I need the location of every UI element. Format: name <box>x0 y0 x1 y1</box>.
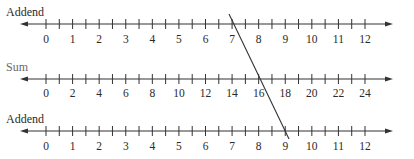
sum-tick-label: 20 <box>306 87 318 99</box>
arrow-right-icon <box>385 22 393 27</box>
sum-tick-label: 4 <box>96 87 102 99</box>
addend-top-tick-label: 10 <box>306 33 318 45</box>
addend-top-tick-label: 6 <box>203 33 209 45</box>
sum-tick-label: 22 <box>333 87 345 99</box>
arrow-left-icon <box>20 22 28 27</box>
sum-tick-label: 24 <box>359 87 371 99</box>
sum-axis-label: Sum <box>6 61 28 73</box>
arrow-left-icon <box>20 77 28 82</box>
sum-tick-label: 0 <box>43 87 49 99</box>
addend-bottom-tick-label: 7 <box>229 140 235 152</box>
addend-top-tick-label: 4 <box>149 33 155 45</box>
addend-bottom-tick-label: 3 <box>123 140 129 152</box>
sum-tick-label: 10 <box>173 87 185 99</box>
addend-bottom-axis-label: Addend <box>6 113 44 125</box>
addend-bottom-tick-label: 8 <box>256 140 262 152</box>
arrow-right-icon <box>385 77 393 82</box>
sum-tick-label: 8 <box>149 87 155 99</box>
addend-top-tick-label: 7 <box>229 33 235 45</box>
sum-tick-label: 16 <box>253 87 265 99</box>
addend-bottom-tick-label: 10 <box>306 140 318 152</box>
addend-top-tick-label: 0 <box>43 33 49 45</box>
addend-bottom-tick-label: 5 <box>176 140 182 152</box>
addend-bottom-tick-label: 4 <box>149 140 155 152</box>
addend-bottom-tick-label: 9 <box>282 140 288 152</box>
sum-tick-label: 18 <box>280 87 292 99</box>
addend-top-tick-label: 1 <box>70 33 76 45</box>
addend-top-tick-label: 3 <box>123 33 129 45</box>
addend-bottom-tick-label: 11 <box>333 140 344 152</box>
nomogram-canvas <box>0 0 414 159</box>
addend-top-tick-label: 8 <box>256 33 262 45</box>
addend-bottom-tick-label: 12 <box>359 140 371 152</box>
addend-bottom-tick-label: 0 <box>43 140 49 152</box>
arrow-right-icon <box>385 129 393 134</box>
addend-top-tick-label: 12 <box>359 33 371 45</box>
addend-top-axis-label: Addend <box>6 6 44 18</box>
addend-top-tick-label: 9 <box>282 33 288 45</box>
addend-top-tick-label: 11 <box>333 33 344 45</box>
addend-bottom-tick-label: 6 <box>203 140 209 152</box>
addend-top-tick-label: 2 <box>96 33 102 45</box>
sum-tick-label: 14 <box>226 87 238 99</box>
arrow-left-icon <box>20 129 28 134</box>
addend-top-tick-label: 5 <box>176 33 182 45</box>
sum-tick-label: 6 <box>123 87 129 99</box>
addend-bottom-tick-label: 2 <box>96 140 102 152</box>
sum-tick-label: 12 <box>200 87 212 99</box>
sum-tick-label: 2 <box>70 87 76 99</box>
addend-bottom-tick-label: 1 <box>70 140 76 152</box>
